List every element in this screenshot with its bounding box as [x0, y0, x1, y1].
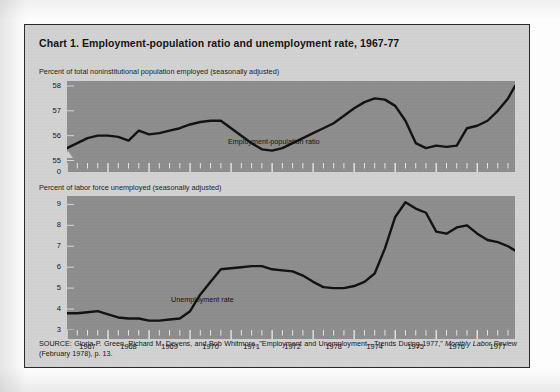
unemployment-rate-plot: [67, 196, 515, 330]
chart-figure: Chart 1. Employment-population ratio and…: [24, 24, 530, 368]
lower-panel-caption: Percent of labor force unemployed (seaso…: [39, 183, 222, 192]
y-tick-label: 58: [45, 81, 61, 90]
scanned-page: Chart 1. Employment-population ratio and…: [0, 0, 560, 392]
source-journal-name-cont: Labor Review: [473, 339, 517, 348]
employment-ratio-series-label: Employment-population ratio: [228, 137, 320, 146]
lower-tick-strip: [67, 330, 515, 339]
y-tick-label: 3: [45, 325, 61, 334]
unemployment-rate-svg: [67, 196, 515, 330]
employment-ratio-plot: [67, 81, 515, 163]
figure-title: Chart 1. Employment-population ratio and…: [39, 37, 399, 49]
source-journal-name: Monthly: [445, 339, 470, 348]
y-tick-label: 8: [45, 220, 61, 229]
y-tick-label: 4: [45, 304, 61, 313]
employment-ratio-svg: [67, 81, 515, 163]
y-tick-label: 9: [45, 199, 61, 208]
unemployment-rate-series-label: Unemployment rate: [171, 295, 234, 304]
upper-tick-strip: [67, 163, 515, 172]
y-tick-label: 7: [45, 241, 61, 250]
upper-tick-marks: [67, 163, 515, 172]
y-tick-label-zero: 0: [45, 167, 61, 176]
source-note: SOURCE: Gloria P. Green, Richard M. Deve…: [39, 339, 517, 359]
y-tick-label: 55: [45, 156, 61, 165]
y-tick-label: 57: [45, 106, 61, 115]
source-text-part1: SOURCE: Gloria P. Green, Richard M. Deve…: [39, 339, 445, 348]
source-text-part2: (February 1978), p. 13.: [39, 349, 113, 358]
y-axis-break-marker: [63, 151, 73, 158]
lower-tick-marks: [67, 330, 515, 339]
y-tick-label: 6: [45, 262, 61, 271]
y-tick-label: 56: [45, 131, 61, 140]
upper-panel-caption: Percent of total noninstitutional popula…: [39, 67, 279, 76]
y-tick-label: 5: [45, 283, 61, 292]
